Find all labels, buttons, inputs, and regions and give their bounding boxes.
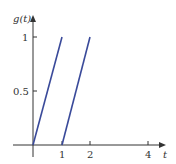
x-tick-label-2: 2 <box>87 149 93 160</box>
x-tick-label-1: 1 <box>59 149 65 160</box>
x-axis-label: t <box>163 149 168 160</box>
x-axis-arrow-icon <box>159 142 166 148</box>
y-axis-label: g(t) <box>13 13 31 24</box>
y-tick-label-1: 1 <box>22 32 28 43</box>
x-tick-label-4: 4 <box>145 149 151 160</box>
chart: g(t) 1 0.5 1 2 4 t <box>0 0 176 164</box>
series-segment-2 <box>62 37 90 145</box>
y-tick-label-05: 0.5 <box>13 86 29 97</box>
series-segment-1 <box>33 37 62 145</box>
